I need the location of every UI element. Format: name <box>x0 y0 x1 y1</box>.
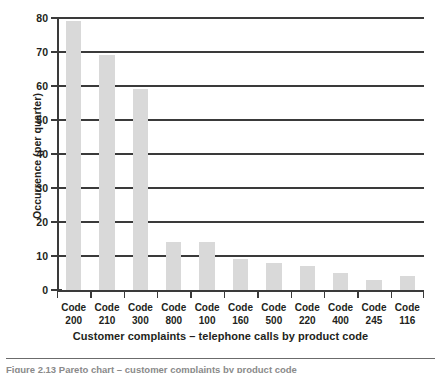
x-axis-category-label-line1: Code <box>161 302 186 315</box>
x-axis-category-label: Code300 <box>128 302 153 327</box>
figure-caption: Figure 2.13 Pareto chart – customer comp… <box>6 364 436 373</box>
x-axis-tick <box>190 290 191 298</box>
y-axis-tick-label: 60 <box>36 80 48 92</box>
bar <box>166 242 181 290</box>
x-axis-category-label-line2: 210 <box>95 315 120 328</box>
x-axis-spine <box>57 290 424 292</box>
y-axis-tick <box>51 187 62 188</box>
x-axis-tick <box>90 290 91 298</box>
gridline <box>57 17 424 19</box>
bar <box>66 21 81 290</box>
x-axis-tick <box>124 290 125 298</box>
x-axis-category-label: Code100 <box>195 302 220 327</box>
y-axis-tick-label: 0 <box>42 284 48 296</box>
x-axis-tick <box>157 290 158 298</box>
x-axis-category-label-line1: Code <box>95 302 120 315</box>
y-axis-tick <box>51 51 62 52</box>
x-axis-category-label-line2: 116 <box>395 315 420 328</box>
y-axis-tick-label: 50 <box>36 114 48 126</box>
x-axis-category-label-line2: 400 <box>328 315 353 328</box>
y-axis-tick-label: 70 <box>36 46 48 58</box>
x-axis-category-label-line1: Code <box>328 302 353 315</box>
y-axis-tick <box>51 17 62 18</box>
x-axis-category-label: Code200 <box>61 302 86 327</box>
y-axis-tick-label: 40 <box>36 148 48 160</box>
x-axis-tick <box>57 290 58 298</box>
y-axis-tick-label: 10 <box>36 250 48 262</box>
bar <box>366 280 381 290</box>
x-axis-category-label-line1: Code <box>261 302 286 315</box>
x-axis-tick <box>391 290 392 298</box>
x-axis-category-label-line1: Code <box>395 302 420 315</box>
x-axis-category-label-line1: Code <box>228 302 253 315</box>
plot-area: 01020304050607080 Code200Code210Code300C… <box>57 18 424 290</box>
x-axis-category-label-line2: 200 <box>61 315 86 328</box>
x-axis-category-label-line2: 245 <box>361 315 386 328</box>
y-axis-tick <box>51 85 62 86</box>
bar <box>133 89 148 290</box>
y-axis-tick <box>51 153 62 154</box>
x-axis-category-label: Code500 <box>261 302 286 327</box>
bar <box>233 259 248 290</box>
x-axis-tick <box>357 290 358 298</box>
bar <box>333 273 348 290</box>
bar <box>99 55 114 290</box>
x-axis-category-label: Code220 <box>295 302 320 327</box>
x-axis-tick <box>291 290 292 298</box>
x-axis-tick <box>257 290 258 298</box>
x-axis-category-label-line1: Code <box>61 302 86 315</box>
x-axis-category-label: Code160 <box>228 302 253 327</box>
figure-bar-chart: Occurrence (per quarter) 010203040506070… <box>0 0 441 373</box>
x-axis-category-label-line1: Code <box>295 302 320 315</box>
x-axis-tick <box>423 290 424 298</box>
y-axis-tick <box>51 255 62 256</box>
y-axis-tick-label: 20 <box>36 216 48 228</box>
y-axis-tick-label: 80 <box>36 12 48 24</box>
x-axis-category-label: Code245 <box>361 302 386 327</box>
bar <box>300 266 315 290</box>
x-axis-tick <box>324 290 325 298</box>
x-axis-category-label-line2: 100 <box>195 315 220 328</box>
y-axis-tick <box>51 119 62 120</box>
y-axis-tick-label: 30 <box>36 182 48 194</box>
bar <box>266 263 281 290</box>
x-axis-category-label-line1: Code <box>195 302 220 315</box>
x-axis-category-label-line2: 220 <box>295 315 320 328</box>
gridline <box>57 51 424 53</box>
x-axis-category-label: Code210 <box>95 302 120 327</box>
bar <box>199 242 214 290</box>
x-axis-category-label-line2: 300 <box>128 315 153 328</box>
x-axis-category-label-line2: 500 <box>261 315 286 328</box>
x-axis-tick <box>224 290 225 298</box>
x-axis-category-label-line1: Code <box>361 302 386 315</box>
x-axis-category-label-line1: Code <box>128 302 153 315</box>
x-axis-category-label: Code400 <box>328 302 353 327</box>
bar <box>400 276 415 290</box>
x-axis-category-label: Code800 <box>161 302 186 327</box>
x-axis-category-label-line2: 800 <box>161 315 186 328</box>
x-axis-title: Customer complaints – telephone calls by… <box>0 330 441 342</box>
caption-divider <box>6 358 435 359</box>
y-axis-tick <box>51 221 62 222</box>
x-axis-category-label: Code116 <box>395 302 420 327</box>
x-axis-category-label-line2: 160 <box>228 315 253 328</box>
